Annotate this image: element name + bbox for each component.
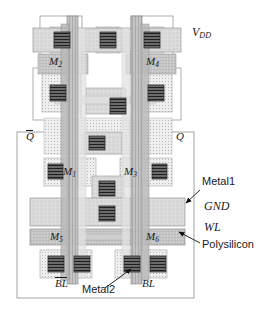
- contact: [148, 85, 164, 101]
- nmos-section: [30, 118, 185, 278]
- label-polysilicon: Polysilicon: [202, 239, 254, 250]
- label-m3: M3: [124, 166, 137, 178]
- contact: [48, 164, 63, 179]
- label-bl-bar: BL: [55, 278, 68, 289]
- contact: [54, 32, 70, 48]
- label-metal2: Metal2: [82, 284, 115, 295]
- label-q: Q: [176, 131, 184, 142]
- label-m2: M2: [49, 56, 62, 68]
- label-m5: M5: [50, 231, 63, 243]
- contact: [124, 256, 140, 272]
- metal2-bitline: [131, 16, 142, 284]
- metal1-vertical-right: [122, 28, 130, 278]
- contact: [100, 32, 116, 48]
- contact: [74, 256, 90, 272]
- contact: [99, 206, 115, 221]
- metal1-vertical-left: [78, 28, 86, 278]
- contact: [150, 256, 166, 272]
- label-m6: M6: [146, 231, 159, 243]
- label-m1: M1: [63, 166, 76, 178]
- metal1-arrow: [186, 190, 200, 203]
- contact: [110, 98, 126, 114]
- contact: [99, 181, 115, 196]
- label-m4: M4: [146, 56, 159, 68]
- label-metal1: Metal1: [202, 176, 235, 187]
- contact: [48, 256, 64, 272]
- contact: [50, 85, 66, 101]
- label-bl: BL: [142, 278, 155, 289]
- contact: [89, 136, 105, 150]
- polysilicon-wordline-core: [78, 234, 140, 240]
- contact: [144, 32, 160, 48]
- contact: [152, 164, 167, 179]
- label-vdd: VDD: [192, 26, 211, 40]
- label-wl: WL: [204, 221, 221, 233]
- label-gnd: GND: [204, 200, 229, 212]
- label-q-bar: Q: [26, 131, 34, 142]
- sram-layout-figure: VDD Q Q M1 M2 M3 M4 M5 M6 Metal1 GND WL …: [0, 0, 268, 320]
- layout-canvas: [0, 0, 268, 320]
